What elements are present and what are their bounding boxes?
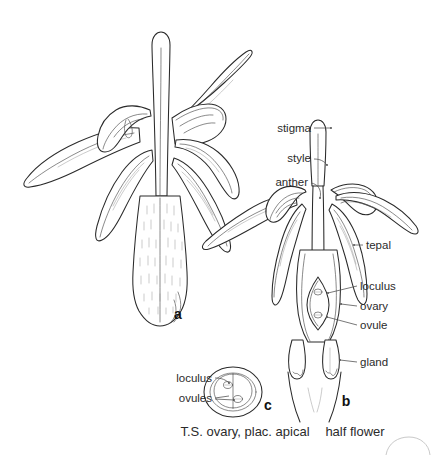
figure-b-ovary xyxy=(297,250,341,342)
illustration-canvas: a xyxy=(0,0,442,455)
figure-a-style xyxy=(152,32,170,196)
label-ovary: ovary xyxy=(340,300,388,312)
figure-c-ts-ovary: c xyxy=(204,367,272,417)
label-ovules-ts-text: ovules xyxy=(179,392,212,404)
figure-letter-a: a xyxy=(174,306,182,322)
caption-ts-ovary: T.S. ovary, plac. apical xyxy=(180,424,309,439)
figure-a-whole-flower: a xyxy=(24,32,252,326)
leader-ovary xyxy=(341,304,357,306)
label-gland-text: gland xyxy=(360,356,388,368)
label-ovary-text: ovary xyxy=(360,300,388,312)
leader-gland xyxy=(340,360,357,362)
label-stigma-text: stigma xyxy=(277,122,311,134)
botanical-figure-plate: a xyxy=(0,0,442,455)
figure-letter-b: b xyxy=(342,393,351,409)
figure-b-pedicel xyxy=(288,372,341,422)
label-tepal-text: tepal xyxy=(366,239,391,251)
label-anther-text: anther xyxy=(275,176,308,188)
label-loculus-text: loculus xyxy=(360,280,396,292)
label-loculus-ts-text: loculus xyxy=(176,372,212,384)
figure-b-glands xyxy=(289,340,340,379)
label-style-text: style xyxy=(287,152,311,164)
label-ovule-text: ovule xyxy=(360,319,388,331)
label-gland: gland xyxy=(339,356,388,368)
caption-half-flower: half flower xyxy=(325,424,385,439)
figure-letter-c: c xyxy=(264,397,272,413)
page-edge-arc-artifact xyxy=(386,437,430,455)
